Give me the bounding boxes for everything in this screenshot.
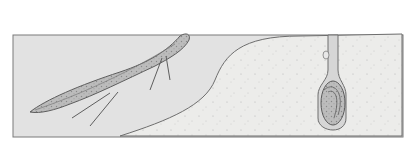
cocoon	[321, 81, 345, 125]
lungfish-illustration	[0, 0, 419, 149]
breathing-opening	[323, 51, 329, 59]
